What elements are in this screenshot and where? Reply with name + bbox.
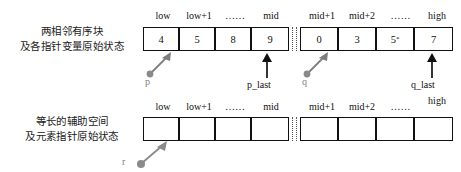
pointer-q-last-arrow: [425, 53, 439, 78]
header-top-right-high: high: [419, 10, 455, 21]
source-array-right-block: 0 3 5* 7: [300, 27, 453, 51]
caption-bottom-line2: 及元素指针原始状态: [8, 129, 136, 144]
aux-cell-mid: [251, 117, 289, 141]
aux-cell-low-plus-1: [179, 117, 215, 141]
header-top-right-midplus2: mid+2: [342, 10, 382, 21]
header-top-left-low: low: [145, 10, 181, 21]
source-cell-high: 7: [414, 27, 453, 51]
header-bottom-right-midplus1: mid+1: [302, 101, 342, 112]
source-cell-mid-plus-1: 0: [300, 27, 338, 51]
header-bottom-right-midplus2: mid+2: [342, 101, 382, 112]
header-top-left-lowplus1: low+1: [181, 10, 217, 21]
pointer-q-arrow: [301, 52, 335, 78]
header-top-right-ellipsis: ……: [382, 10, 419, 21]
caption-top: 两相邻有序块 及各指针变量原始状态: [8, 24, 136, 54]
aux-cell-mid-plus-1: [300, 117, 338, 141]
source-array-left-block: 4 5 8 9: [143, 27, 289, 51]
pointer-r-arrow: [131, 140, 173, 170]
header-bottom-left-lowplus1: low+1: [181, 101, 217, 112]
auxiliary-array-left-block: [143, 117, 289, 141]
aux-cell-high: [414, 117, 453, 141]
block-separator-bottom: [292, 117, 297, 141]
auxiliary-array-right-block: [300, 117, 453, 141]
merge-sort-diagram: 两相邻有序块 及各指针变量原始状态 等长的辅助空间 及元素指针原始状态 low …: [0, 0, 461, 172]
pointer-p-last-arrow: [260, 53, 274, 78]
header-bottom-right-ellipsis: ……: [382, 101, 419, 112]
source-cell-mid-plus-2: 3: [338, 27, 376, 51]
caption-bottom-line1: 等长的辅助空间: [8, 114, 136, 129]
header-bottom-left-ellipsis: ……: [217, 101, 253, 112]
block-separator-top: [292, 27, 297, 51]
pointer-q-last-label: q_last: [411, 79, 435, 90]
aux-cell-low: [143, 117, 179, 141]
pointer-p-label: p: [145, 76, 150, 87]
aux-cell-right-3: [376, 117, 414, 141]
source-cell-right-3: 5*: [376, 27, 414, 51]
caption-top-line2: 及各指针变量原始状态: [8, 39, 136, 54]
caption-top-line1: 两相邻有序块: [8, 24, 136, 39]
header-bottom-left-low: low: [145, 101, 181, 112]
aux-cell-left-3: [215, 117, 251, 141]
pointer-q-label: q: [302, 76, 307, 87]
header-bottom-right-high: high: [419, 95, 455, 106]
source-cell-left-3: 8: [215, 27, 251, 51]
aux-cell-mid-plus-2: [338, 117, 376, 141]
pointer-r-label: r: [122, 156, 125, 167]
header-top-right-midplus1: mid+1: [302, 10, 342, 21]
header-bottom-left-mid: mid: [253, 101, 289, 112]
header-top-left-mid: mid: [253, 10, 289, 21]
caption-bottom: 等长的辅助空间 及元素指针原始状态: [8, 114, 136, 144]
pointer-p-last-label: p_last: [247, 79, 271, 90]
pointer-p-arrow: [144, 52, 178, 78]
source-cell-low: 4: [143, 27, 179, 51]
source-cell-mid: 9: [251, 27, 289, 51]
header-top-left-ellipsis: ……: [217, 10, 253, 21]
source-cell-low-plus-1: 5: [179, 27, 215, 51]
